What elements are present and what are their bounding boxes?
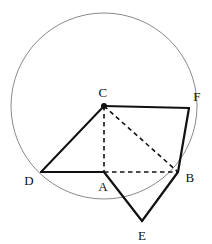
vertex-label-f: F — [193, 90, 200, 103]
segment-a-e — [104, 172, 142, 221]
vertex-marker-c — [101, 103, 107, 109]
geometry-canvas — [0, 0, 212, 244]
segment-c-f — [104, 106, 189, 108]
segment-c-b-dashed — [104, 106, 178, 172]
segment-c-d — [41, 106, 104, 172]
vertex-label-b: B — [186, 171, 195, 184]
segment-f-b — [178, 108, 189, 172]
vertex-label-e: E — [138, 229, 146, 242]
vertex-label-a: A — [98, 180, 108, 193]
vertex-label-d: D — [24, 174, 34, 187]
segment-e-b — [142, 172, 178, 221]
geometry-figure: C F D A B E — [0, 0, 212, 244]
vertex-label-c: C — [99, 86, 108, 99]
